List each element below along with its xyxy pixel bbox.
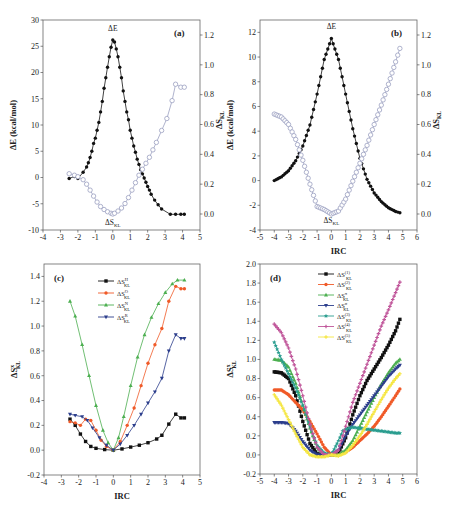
x-tick-label: 5 bbox=[198, 233, 202, 242]
y2-tick-label: 1.2 bbox=[421, 31, 431, 40]
legend-label: ΔSNKL bbox=[117, 301, 130, 312]
x-axis: -5-4-3-2-10123456 bbox=[257, 230, 419, 242]
y2-tick-label: 1.0 bbox=[421, 61, 431, 70]
x-tick-label: -3 bbox=[57, 233, 64, 242]
x-tick-label: -2 bbox=[299, 477, 306, 486]
y2-axis: 0.00.20.40.60.81.01.2ΔSKL bbox=[200, 31, 225, 219]
annotation: ΔE bbox=[108, 24, 118, 33]
x-tick-label: -5 bbox=[257, 477, 264, 486]
y-tick-label: 1.8 bbox=[246, 279, 256, 288]
y2-tick-label: 0.0 bbox=[204, 210, 214, 219]
legend-item: ΔSRKL bbox=[98, 313, 130, 324]
y-tick-label: -10 bbox=[28, 226, 39, 235]
y2-tick-label: 0.2 bbox=[204, 180, 214, 189]
x-tick-label: -2 bbox=[75, 478, 82, 487]
x-tick-label: 4 bbox=[386, 233, 390, 242]
y2-tick-label: 1.0 bbox=[204, 61, 214, 70]
chart-panel-c: -4-3-2-1012345-0.20.00.20.40.60.81.01.21… bbox=[9, 264, 202, 501]
y-tick-label: 0.6 bbox=[246, 393, 256, 402]
x-tick-label: -3 bbox=[58, 478, 65, 487]
y-tick-label: 15 bbox=[31, 95, 39, 104]
legend-label: ΔSOKL bbox=[117, 289, 130, 300]
y2-tick-label: 1.2 bbox=[204, 31, 214, 40]
x-tick-label: 6 bbox=[415, 233, 419, 242]
y-tick-label: -2 bbox=[249, 201, 256, 210]
y-tick-label: 0.0 bbox=[30, 446, 40, 455]
x-tick-label: -1 bbox=[93, 478, 100, 487]
y-tick-label: -0.2 bbox=[243, 470, 256, 479]
y-tick-label: 5 bbox=[35, 147, 39, 156]
legend-label: ΔSσKL bbox=[337, 301, 349, 312]
y-axis-label: ΔE (kcal/mol) bbox=[8, 100, 18, 150]
x-axis: -4-3-2-1012345 bbox=[40, 230, 202, 242]
y-axis-label: ΔE (kcal/mol) bbox=[225, 100, 235, 150]
y2-tick-label: 0.8 bbox=[421, 90, 431, 99]
y-tick-label: 12 bbox=[248, 28, 256, 37]
x-axis-label: IRC bbox=[331, 490, 347, 500]
x-tick-label: -3 bbox=[285, 233, 292, 242]
series-c-3 bbox=[68, 333, 186, 452]
plot-frame bbox=[260, 20, 417, 230]
x-tick-label: 5 bbox=[198, 478, 202, 487]
panel-label: (d) bbox=[270, 273, 281, 283]
y2-tick-label: 0.4 bbox=[421, 150, 431, 159]
x-tick-label: -1 bbox=[92, 233, 99, 242]
x-tick-label: 1 bbox=[128, 233, 132, 242]
x-tick-label: -2 bbox=[299, 233, 306, 242]
legend-c: ΔSHKLΔSOKLΔSNKLΔSRKL bbox=[98, 277, 130, 324]
y-axis: -0.20.00.20.40.60.81.01.21.41.61.82.0 bbox=[243, 260, 260, 479]
x-tick-label: 6 bbox=[415, 477, 419, 486]
y-tick-label: 8 bbox=[252, 78, 256, 87]
x-tick-label: -3 bbox=[285, 477, 292, 486]
plot-frame bbox=[43, 20, 200, 230]
legend-label: ΔSπKL bbox=[337, 291, 349, 302]
panel-label: (a) bbox=[174, 28, 185, 38]
x-tick-label: 2 bbox=[146, 233, 150, 242]
legend-label: ΔSHKL bbox=[117, 277, 130, 288]
y-tick-label: 0.0 bbox=[246, 451, 256, 460]
x-tick-label: 4 bbox=[181, 233, 185, 242]
y2-axis: 0.00.20.40.60.81.01.2ΔSKL bbox=[417, 31, 442, 219]
x-axis: -5-4-3-2-10123456 bbox=[257, 474, 419, 486]
legend-item: ΔS(4)KL bbox=[318, 322, 352, 333]
x-tick-label: 2 bbox=[358, 233, 362, 242]
annotation: ΔSKL bbox=[105, 218, 121, 228]
x-axis: -4-3-2-1012345 bbox=[41, 475, 202, 487]
y2-axis-label: ΔSKL bbox=[431, 111, 442, 129]
x-tick-label: 1 bbox=[129, 478, 133, 487]
x-tick-label: 1 bbox=[344, 233, 348, 242]
chart-panel-d: -5-4-3-2-10123456-0.20.00.20.40.60.81.01… bbox=[225, 260, 419, 500]
x-tick-label: 2 bbox=[146, 478, 150, 487]
y-tick-label: 6 bbox=[252, 102, 256, 111]
x-axis-label: IRC bbox=[114, 491, 130, 501]
y2-tick-label: 0.8 bbox=[204, 90, 214, 99]
legend-item: ΔS(5)KL bbox=[318, 333, 352, 344]
panel-label: (b) bbox=[391, 28, 402, 38]
y2-tick-label: 0.6 bbox=[204, 120, 214, 129]
y-tick-label: 10 bbox=[248, 53, 256, 62]
x-tick-label: 5 bbox=[401, 233, 405, 242]
y-tick-label: 20 bbox=[31, 68, 39, 77]
y2-tick-label: 0.2 bbox=[421, 180, 431, 189]
legend-item: ΔS(1)KL bbox=[318, 270, 352, 281]
legend-item: ΔS(2)KL bbox=[318, 280, 352, 291]
y-tick-label: 0 bbox=[35, 173, 39, 182]
chart-panel-b: -5-4-3-2-10123456-4-20246810120.00.20.40… bbox=[225, 20, 442, 256]
y-tick-label: 0.4 bbox=[246, 413, 256, 422]
legend-d: ΔS(1)KLΔS(2)KLΔSπKLΔSσKLΔS(3)KLΔS(4)KLΔS… bbox=[318, 270, 352, 344]
y-tick-label: 2 bbox=[252, 152, 256, 161]
y-tick-label: 1.2 bbox=[246, 336, 256, 345]
y-tick-label: 1.4 bbox=[246, 317, 256, 326]
y-axis: -10-5051015202530 bbox=[28, 16, 43, 235]
legend-label: ΔS(2)KL bbox=[337, 280, 352, 291]
y-tick-label: 0.8 bbox=[246, 374, 256, 383]
x-tick-label: -4 bbox=[40, 233, 47, 242]
x-tick-label: 0 bbox=[111, 233, 115, 242]
x-tick-label: 0 bbox=[329, 233, 333, 242]
y-tick-label: 0.2 bbox=[246, 432, 256, 441]
legend-item: ΔSNKL bbox=[98, 301, 130, 312]
x-tick-label: -4 bbox=[271, 477, 278, 486]
x-tick-label: 4 bbox=[181, 478, 185, 487]
y-axis: -4-2024681012 bbox=[248, 28, 260, 235]
y-tick-label: 1.0 bbox=[30, 322, 40, 331]
